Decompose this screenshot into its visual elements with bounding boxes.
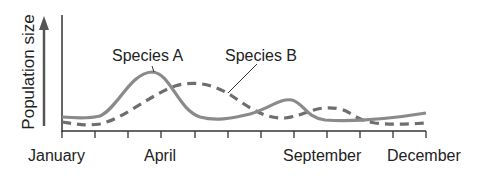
species-a-label: Species A [112, 47, 183, 64]
population-chart: Population size Species A Species B Janu… [0, 0, 489, 185]
y-axis-label: Population size [19, 14, 38, 129]
species-a-line [62, 72, 426, 121]
x-axis-ticks [62, 131, 426, 138]
x-label-september: September [283, 147, 362, 164]
species-b-leader [228, 64, 257, 93]
y-axis-arrow-icon [39, 16, 49, 126]
species-b-label: Species B [225, 47, 297, 64]
x-label-april: April [144, 147, 176, 164]
x-label-december: December [387, 147, 461, 164]
x-label-january: January [28, 147, 85, 164]
